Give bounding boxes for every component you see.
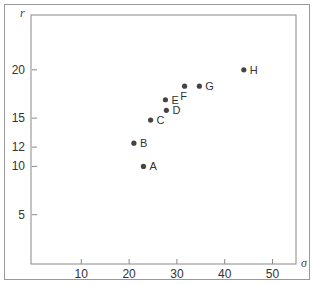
data-point-e: E (163, 94, 179, 106)
data-point-c: C (148, 114, 165, 126)
point-marker-icon (163, 97, 168, 102)
point-label: B (140, 137, 147, 149)
data-point-a: A (141, 160, 158, 172)
data-point-h: H (241, 64, 258, 76)
axis-ticks: 1020304050510121520 (12, 63, 280, 281)
plot-axes (31, 15, 296, 264)
y-tick-label: 5 (18, 208, 25, 222)
point-label: E (171, 94, 178, 106)
point-marker-icon (164, 108, 169, 113)
x-axis-label: σ (301, 256, 308, 270)
x-tick-label: 40 (218, 267, 232, 281)
point-label: A (149, 160, 157, 172)
x-tick-label: 20 (122, 267, 136, 281)
scatter-chart: 1020304050510121520 ABCDEFGH σ r (0, 0, 315, 285)
point-marker-icon (197, 84, 202, 89)
data-points: ABCDEFGH (131, 64, 258, 173)
data-point-d: D (164, 104, 181, 116)
y-axis-label: r (20, 6, 25, 20)
point-label: F (180, 90, 187, 102)
point-label: C (157, 114, 165, 126)
point-label: D (172, 104, 180, 116)
point-label: H (250, 64, 258, 76)
y-tick-label: 12 (12, 140, 26, 154)
y-tick-label: 20 (12, 63, 26, 77)
data-point-b: B (131, 137, 147, 149)
y-tick-label: 10 (12, 159, 26, 173)
x-tick-label: 10 (75, 267, 89, 281)
point-marker-icon (241, 67, 246, 72)
x-tick-label: 30 (170, 267, 184, 281)
y-tick-label: 15 (12, 111, 26, 125)
x-tick-label: 50 (266, 267, 280, 281)
point-marker-icon (141, 164, 146, 169)
data-point-f: F (180, 84, 187, 103)
data-point-g: G (197, 80, 214, 92)
point-marker-icon (182, 84, 187, 89)
point-marker-icon (131, 141, 136, 146)
point-marker-icon (148, 117, 153, 122)
plot-box (31, 15, 296, 264)
point-label: G (205, 80, 214, 92)
